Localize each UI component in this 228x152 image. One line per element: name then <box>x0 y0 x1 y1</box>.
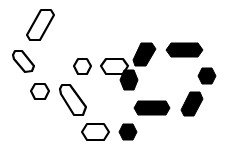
outline-slanted-hex-top-left-icon <box>27 10 54 40</box>
filled-wide-hex-upper-right-icon <box>166 43 203 57</box>
outline-wide-hex-bottom-icon <box>82 124 109 140</box>
outline-slanted-hex-lower-icon <box>60 85 86 115</box>
hexagon-pattern-graphic <box>0 0 228 152</box>
filled-slanted-hex-lower-right-icon <box>181 92 203 116</box>
outline-small-hex-left-lower-icon <box>31 84 49 99</box>
filled-slanted-hex-upper-icon <box>133 43 156 66</box>
outline-small-hex-center-icon <box>74 59 91 74</box>
outline-hex-left-icon <box>13 51 34 72</box>
filled-small-hex-bottom-icon <box>119 124 137 140</box>
filled-wide-hex-lower-icon <box>134 101 170 115</box>
filled-small-hex-right-icon <box>198 68 216 84</box>
filled-small-hex-mid-icon <box>120 70 138 90</box>
